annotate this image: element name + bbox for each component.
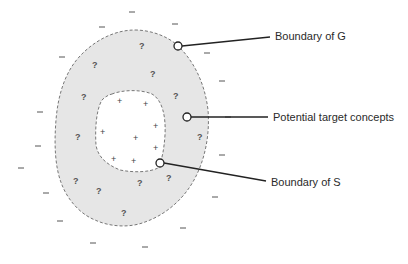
svg-text:+: + (133, 133, 138, 143)
svg-text:+: + (111, 154, 116, 164)
svg-text:?: ? (81, 92, 87, 102)
svg-text:?: ? (197, 132, 203, 142)
label-potential-target-concepts: Potential target concepts (273, 111, 394, 123)
svg-text:+: + (131, 156, 136, 166)
svg-text:?: ? (121, 208, 127, 218)
svg-text:?: ? (75, 132, 81, 142)
svg-text:+: + (100, 127, 105, 137)
leader-boundary-of-g (174, 37, 270, 50)
svg-text:?: ? (96, 186, 102, 196)
svg-text:+: + (153, 143, 158, 153)
svg-text:?: ? (73, 176, 79, 186)
version-space-diagram: ? ? ? ? ? ? ? ? ? ? ? ? + + + + + + + + (0, 0, 408, 264)
svg-text:?: ? (92, 60, 98, 70)
svg-text:?: ? (173, 91, 179, 101)
svg-text:?: ? (137, 178, 143, 188)
svg-text:+: + (143, 99, 148, 109)
svg-text:+: + (117, 96, 122, 106)
svg-text:?: ? (139, 41, 145, 51)
label-boundary-of-g: Boundary of G (275, 30, 346, 42)
label-boundary-of-s: Boundary of S (271, 176, 341, 188)
svg-text:?: ? (166, 173, 172, 183)
svg-text:+: + (153, 121, 158, 131)
svg-text:?: ? (150, 69, 156, 79)
